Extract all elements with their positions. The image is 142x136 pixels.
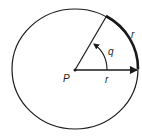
center-point (74, 69, 77, 72)
arc-label: r (131, 29, 135, 40)
radius-angled (75, 17, 106, 70)
arc-length-r (106, 16, 138, 69)
angle-label: q (108, 46, 114, 57)
radius-label: r (105, 74, 109, 85)
radian-diagram: P r r q (0, 0, 142, 136)
angle-arc (94, 44, 107, 70)
center-label: P (63, 73, 70, 84)
